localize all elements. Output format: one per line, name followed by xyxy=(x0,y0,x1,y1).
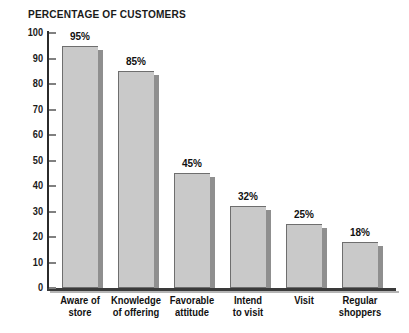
bar-value-label: 32% xyxy=(220,191,276,202)
x-axis-category-label: Intendto visit xyxy=(218,295,278,319)
bar-value-label: 85% xyxy=(108,56,164,67)
bar-shadow xyxy=(322,228,327,288)
bar xyxy=(118,71,154,288)
y-tick-label-wrap: 60 xyxy=(17,129,43,140)
y-tick-label-wrap: 100 xyxy=(17,27,43,38)
y-tick-label: 20 xyxy=(19,231,43,242)
y-tick-label-wrap: 40 xyxy=(17,180,43,191)
category-label-line: Aware of xyxy=(50,295,110,307)
category-label-line: Favorable xyxy=(162,295,222,307)
bar xyxy=(230,206,266,288)
bar-shadow xyxy=(378,246,383,288)
bar xyxy=(286,224,322,288)
y-tick-mark xyxy=(49,109,56,111)
y-tick-mark xyxy=(49,211,56,213)
y-tick-mark xyxy=(49,58,56,60)
y-tick-mark xyxy=(49,287,56,289)
y-tick-mark xyxy=(49,134,56,136)
x-axis-category-label: Visit xyxy=(274,295,334,307)
y-tick-label: 80 xyxy=(19,78,43,89)
y-tick-mark xyxy=(49,83,56,85)
y-tick-label-wrap: 10 xyxy=(17,257,43,268)
bar-shadow xyxy=(266,210,271,288)
bar xyxy=(62,46,98,288)
bar-value-label: 95% xyxy=(52,31,108,42)
y-tick-label: 10 xyxy=(19,257,43,268)
bar-chart: PERCENTAGE OF CUSTOMERS 0102030405060708… xyxy=(0,0,409,333)
y-tick-label-wrap: 80 xyxy=(17,78,43,89)
category-label-line: to visit xyxy=(218,307,278,319)
y-tick-label: 90 xyxy=(19,53,43,64)
y-tick-mark xyxy=(49,236,56,238)
y-tick-label-wrap: 50 xyxy=(17,155,43,166)
y-tick-label: 50 xyxy=(19,155,43,166)
category-label-line: Visit xyxy=(274,295,334,307)
category-label-line: attitude xyxy=(162,307,222,319)
bar xyxy=(342,242,378,288)
x-axis-category-label: Favorableattitude xyxy=(162,295,222,319)
category-label-line: Intend xyxy=(218,295,278,307)
bar-value-label: 45% xyxy=(164,158,220,169)
x-axis-category-label: Knowledgeof offering xyxy=(106,295,166,319)
y-tick-mark xyxy=(49,185,56,187)
plot-area: 0102030405060708090100 95%85%45%32%25%18… xyxy=(0,0,409,333)
y-tick-label-wrap: 20 xyxy=(17,231,43,242)
y-tick-label-wrap: 90 xyxy=(17,53,43,64)
y-tick-label: 100 xyxy=(19,27,43,38)
category-label-line: Regular xyxy=(330,295,390,307)
bar-shadow xyxy=(98,50,103,288)
x-axis-baseline-shadow xyxy=(50,291,399,293)
x-axis-category-label: Regularshoppers xyxy=(330,295,390,319)
y-tick-label-wrap: 70 xyxy=(17,104,43,115)
category-label-line: store xyxy=(50,307,110,319)
y-tick-label-wrap: 30 xyxy=(17,206,43,217)
y-tick-label: 40 xyxy=(19,180,43,191)
category-label-line: Knowledge xyxy=(106,295,166,307)
category-label-line: of offering xyxy=(106,307,166,319)
bar-shadow xyxy=(210,177,215,288)
y-tick-label-wrap: 0 xyxy=(17,282,43,293)
y-tick-label: 30 xyxy=(19,206,43,217)
bar xyxy=(174,173,210,288)
bar-value-label: 25% xyxy=(276,209,332,220)
x-axis-category-label: Aware ofstore xyxy=(50,295,110,319)
y-tick-label: 60 xyxy=(19,129,43,140)
y-tick-mark xyxy=(49,262,56,264)
y-tick-label: 70 xyxy=(19,104,43,115)
bar-shadow xyxy=(154,75,159,288)
y-tick-label: 0 xyxy=(19,282,43,293)
category-label-line: shoppers xyxy=(330,307,390,319)
y-tick-mark xyxy=(49,160,56,162)
bar-value-label: 18% xyxy=(332,227,388,238)
